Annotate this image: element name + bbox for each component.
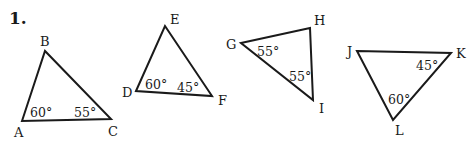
angle-label-k: 45° <box>416 58 438 73</box>
vertex-label-h: H <box>314 13 325 28</box>
angle-label-d: 60° <box>145 77 167 92</box>
angle-label-i: 55° <box>289 69 311 84</box>
triangle-jkl: J K L 45° 60° <box>345 44 466 138</box>
vertex-label-d: D <box>122 85 132 100</box>
vertex-label-e: E <box>170 12 180 27</box>
triangles-diagram: B A C 60° 55° E D F 60° 45° H G I 55° 55… <box>0 0 475 141</box>
angle-label-l: 60° <box>388 92 410 107</box>
vertex-label-a: A <box>13 125 24 140</box>
angle-label-g: 55° <box>257 44 279 59</box>
vertex-label-l: L <box>395 123 404 138</box>
vertex-label-f: F <box>218 93 227 108</box>
triangle-ghi: H G I 55° 55° <box>226 13 325 116</box>
vertex-label-b: B <box>40 34 50 49</box>
angle-label-a: 60° <box>30 105 52 120</box>
angle-label-c: 55° <box>74 105 96 120</box>
vertex-label-c: C <box>108 124 118 139</box>
triangle-ghi-shape <box>241 28 313 100</box>
vertex-label-j: J <box>345 44 352 59</box>
vertex-label-k: K <box>456 46 466 61</box>
triangle-abc: B A C 60° 55° <box>13 34 118 140</box>
angle-label-f: 45° <box>177 80 199 95</box>
vertex-label-g: G <box>226 37 236 52</box>
figure-canvas: 1. B A C 60° 55° E D F 60° 45° H G I 55°… <box>0 0 475 141</box>
problem-number: 1. <box>9 8 27 28</box>
triangle-def: E D F 60° 45° <box>122 12 227 108</box>
vertex-label-i: I <box>319 101 324 116</box>
